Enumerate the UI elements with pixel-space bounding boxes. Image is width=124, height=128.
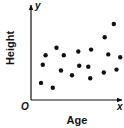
- data-point: [76, 49, 80, 53]
- data-point: [39, 81, 43, 85]
- y-axis-label: Height: [4, 31, 16, 65]
- data-point: [51, 86, 55, 90]
- data-point: [88, 76, 92, 80]
- data-point: [89, 47, 93, 51]
- y-axis-symbol: y: [35, 0, 41, 11]
- data-point: [103, 35, 107, 39]
- x-axis-label: Age: [67, 114, 88, 126]
- data-point: [43, 53, 47, 57]
- data-point: [106, 52, 110, 56]
- scatter-plot: [0, 0, 124, 128]
- origin-label: O: [21, 101, 29, 112]
- x-axis-symbol: x: [117, 101, 123, 112]
- data-point: [102, 70, 106, 74]
- data-point: [114, 67, 118, 71]
- data-point: [112, 22, 116, 26]
- data-point: [41, 63, 45, 67]
- data-points: [39, 22, 123, 90]
- data-point: [77, 64, 81, 68]
- data-point: [118, 55, 122, 59]
- data-point: [54, 46, 58, 50]
- data-point: [59, 68, 63, 72]
- data-point: [70, 73, 74, 77]
- data-point: [86, 65, 90, 69]
- data-point: [62, 53, 66, 57]
